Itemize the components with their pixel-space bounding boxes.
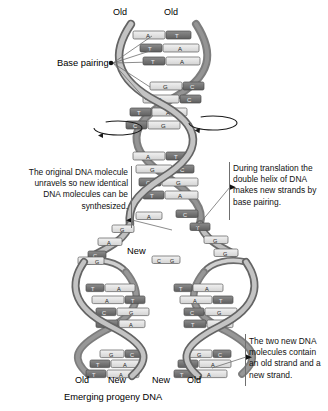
label-base-pairing: Base pairing [57, 58, 109, 68]
base-pair-rung: T A [143, 191, 198, 199]
svg-text:C: C [102, 310, 106, 316]
svg-text:C: C [190, 84, 195, 90]
base-pair-rung: A T [133, 31, 191, 39]
base-pair-rung: C G [184, 308, 237, 316]
svg-text:G: G [161, 123, 166, 129]
bottom-right-caption-rule [245, 334, 246, 386]
base-pair-rung: T A [174, 284, 223, 292]
base-pair-rung: C G [96, 308, 149, 316]
right-daughter-helix: T A A T C G T [174, 262, 254, 378]
svg-text:A: A [180, 59, 184, 65]
svg-text:G: G [120, 227, 124, 233]
rotation-arrow-right [189, 116, 237, 130]
svg-text:T: T [179, 286, 183, 292]
base-pair-rung: A T [180, 296, 233, 304]
base-pairing-leader-dot [109, 61, 114, 66]
svg-text:A: A [129, 322, 133, 328]
fork-unpaired-bases: A G A C C T G G [88, 210, 238, 259]
label-new-bottom-left: New [108, 375, 126, 385]
svg-text:A: A [211, 362, 215, 368]
svg-text:T: T [174, 154, 178, 160]
svg-text:G: G [150, 167, 155, 173]
svg-text:A: A [117, 286, 121, 292]
svg-text:T: T [175, 33, 179, 39]
svg-text:C: C [218, 352, 222, 358]
base-pair-rung: T A [143, 57, 200, 65]
base-pair-rung: G C [150, 82, 204, 90]
left-caption-rule [131, 166, 132, 228]
svg-text:C: C [187, 97, 192, 103]
base-pair-rung: T A [140, 44, 199, 52]
label-new-middle: New [127, 246, 146, 256]
svg-text:T: T [150, 193, 154, 199]
label-new-bottom-right: New [152, 375, 170, 385]
svg-text:A: A [178, 46, 182, 52]
svg-text:T: T [131, 298, 135, 304]
base-pair-rung: A T [92, 296, 145, 304]
svg-text:C: C [183, 212, 187, 218]
label-old-bottom-left: Old [75, 375, 89, 385]
svg-text:G: G [129, 310, 133, 316]
caption-left: The original DNA molecule unravels so ne… [24, 167, 128, 212]
svg-text:T: T [191, 322, 195, 328]
svg-text:C: C [157, 258, 161, 264]
fork-new-bases: C G C G [78, 256, 180, 265]
svg-text:A: A [205, 286, 209, 292]
svg-text:A: A [123, 362, 127, 368]
svg-text:T: T [91, 286, 95, 292]
svg-text:A: A [107, 240, 111, 246]
svg-text:A: A [146, 154, 150, 160]
svg-text:C: C [130, 352, 134, 358]
label-old-bottom-right: Old [187, 375, 201, 385]
svg-text:C: C [190, 310, 194, 316]
svg-text:G: G [197, 352, 201, 358]
parent-helix: A T T A T A G [119, 24, 207, 224]
replication-fork: A G A C C T G G [78, 210, 246, 272]
base-pair-rung: G C [188, 350, 231, 358]
svg-text:T: T [137, 110, 141, 116]
svg-text:G: G [95, 259, 99, 265]
caption-right: During translation the double helix of D… [233, 163, 325, 208]
base-pair-rung: C G [126, 121, 180, 129]
svg-text:G: G [176, 180, 181, 186]
svg-text:A: A [105, 298, 109, 304]
caption-bottom-right: The two new DNA molecules contain an old… [249, 336, 325, 381]
base-pair-rung: T A [90, 360, 143, 368]
figure-footer-label: Emerging progeny DNA [64, 392, 162, 402]
svg-text:A: A [207, 372, 211, 378]
label-old-top-left: Old [113, 7, 127, 17]
svg-text:G: G [217, 310, 221, 316]
svg-text:G: G [163, 84, 168, 90]
label-old-top-right: Old [164, 7, 178, 17]
svg-text:T: T [96, 362, 100, 368]
svg-text:T: T [219, 298, 223, 304]
svg-text:T: T [92, 372, 96, 378]
svg-text:G: G [170, 258, 174, 264]
svg-text:G: G [223, 251, 227, 257]
left-daughter-helix: T A A T C G T [76, 262, 149, 378]
base-pair-rung: G C [100, 350, 143, 358]
svg-text:T: T [180, 372, 184, 378]
left-caption-leader [132, 220, 172, 230]
base-pair-rung: T A [86, 284, 135, 292]
svg-text:G: G [213, 238, 217, 244]
base-pair-rung: A T [133, 152, 188, 160]
svg-text:A: A [178, 193, 182, 199]
svg-text:G: G [109, 352, 113, 358]
svg-text:A: A [147, 214, 151, 220]
dna-replication-figure: A T T A T A G [0, 0, 328, 411]
svg-text:A: A [193, 298, 197, 304]
right-caption-rule [229, 162, 230, 220]
